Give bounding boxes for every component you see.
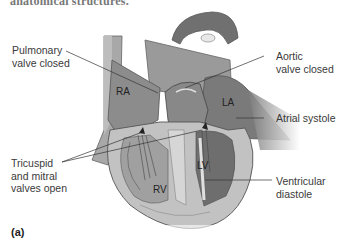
callout-pulmonary-line2: valve closed — [12, 57, 70, 70]
chamber-label-la: LA — [222, 97, 234, 108]
callout-aortic-line1: Aortic — [276, 50, 334, 63]
callout-pulmonary-valve: Pulmonary valve closed — [12, 44, 70, 69]
callout-aortic-valve: Aortic valve closed — [276, 50, 334, 75]
callout-pulmonary-line1: Pulmonary — [12, 44, 70, 57]
callout-tricuspid-line2: and mitral — [11, 170, 67, 183]
callout-tricuspid-line1: Tricuspid — [11, 157, 67, 170]
callout-atrial-line1: Atrial systole — [276, 112, 336, 125]
callout-ventricular-line2: diastole — [276, 188, 326, 201]
callout-tricuspid-line3: valves open — [11, 182, 67, 195]
chamber-label-lv: LV — [197, 160, 209, 171]
chamber-label-ra: RA — [116, 86, 130, 97]
callout-atrial-systole: Atrial systole — [276, 112, 336, 125]
callout-aortic-line2: valve closed — [276, 63, 334, 76]
chamber-label-rv: RV — [153, 184, 167, 195]
callout-ventricular-diastole: Ventricular diastole — [276, 175, 326, 200]
panel-label: (a) — [11, 226, 24, 238]
callout-tricuspid-mitral: Tricuspid and mitral valves open — [11, 157, 67, 195]
callout-ventricular-line1: Ventricular — [276, 175, 326, 188]
